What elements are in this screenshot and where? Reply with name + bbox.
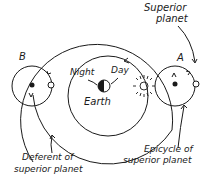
center-of-epicycle-a xyxy=(173,82,178,87)
earth-label: Earth xyxy=(84,97,111,107)
day-label: Day xyxy=(111,66,129,75)
planet-a xyxy=(193,81,199,87)
epicycle-pointer xyxy=(178,106,184,148)
deferent-label-line2: superior planet xyxy=(14,165,82,174)
point-a-label: A xyxy=(177,53,184,63)
epicycle-b-arrow xyxy=(47,71,51,74)
night-pointer xyxy=(88,80,97,85)
epicycle-a-arrow xyxy=(186,71,190,75)
center-of-epicycle-b xyxy=(30,83,35,88)
superior-planet-label-line1: Superior xyxy=(144,3,186,13)
epicycle-label-line2: superior planet xyxy=(123,156,191,165)
superior-planet-label-line2: planet xyxy=(156,14,188,24)
deferent-pointer xyxy=(51,136,52,153)
deferent-arrow-b xyxy=(29,93,33,97)
deferent-label-line1: Deferent of xyxy=(22,153,73,162)
epicycle-label-line1: Epicycle of xyxy=(144,145,193,154)
deferent-arrow-a xyxy=(172,73,176,77)
planet-b xyxy=(48,82,54,88)
point-b-label: B xyxy=(19,52,26,62)
night-label: Night xyxy=(70,68,94,77)
earth-icon xyxy=(98,80,110,92)
